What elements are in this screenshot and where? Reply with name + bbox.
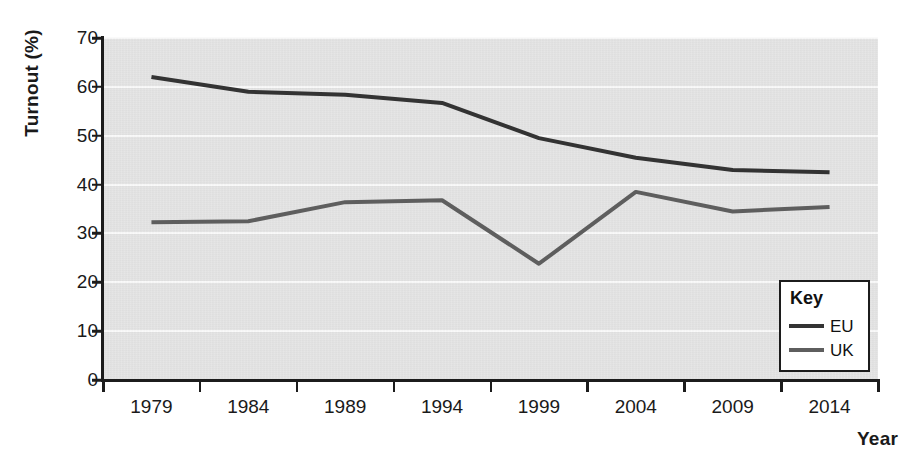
y-tick-mark bbox=[92, 232, 103, 235]
x-tick-mark bbox=[780, 379, 783, 392]
turnout-line-chart: Turnout (%) Year 010203040506070 Key EU … bbox=[0, 0, 912, 467]
y-tick-label: 10 bbox=[42, 320, 98, 342]
plot-area bbox=[103, 38, 878, 380]
legend-entry-eu: EU bbox=[789, 316, 854, 336]
x-tick-mark bbox=[393, 379, 396, 392]
legend-title: Key bbox=[790, 288, 823, 309]
y-tick-mark bbox=[92, 86, 103, 89]
x-tick-mark bbox=[586, 379, 589, 392]
y-tick-label: 40 bbox=[42, 174, 98, 196]
x-tick-label: 2014 bbox=[808, 396, 850, 418]
x-tick-mark bbox=[490, 379, 493, 392]
x-tick-label: 1984 bbox=[227, 396, 269, 418]
y-tick-label: 20 bbox=[42, 271, 98, 293]
x-tick-mark bbox=[199, 379, 202, 392]
y-tick-mark bbox=[92, 183, 103, 186]
gridline bbox=[103, 232, 878, 234]
gridline bbox=[103, 86, 878, 88]
x-tick-label: 2004 bbox=[615, 396, 657, 418]
y-tick-mark bbox=[92, 37, 103, 40]
x-tick-mark bbox=[102, 379, 105, 392]
legend-entry-uk: UK bbox=[789, 340, 854, 360]
gridline bbox=[103, 135, 878, 137]
y-tick-label: 50 bbox=[42, 125, 98, 147]
x-tick-label: 1999 bbox=[518, 396, 560, 418]
x-tick-mark bbox=[296, 379, 299, 392]
legend-key-box: Key EU UK bbox=[779, 280, 870, 372]
legend-label-uk: UK bbox=[830, 342, 854, 359]
x-tick-label: 2009 bbox=[712, 396, 754, 418]
y-tick-mark bbox=[92, 134, 103, 137]
legend-label-eu: EU bbox=[830, 318, 854, 335]
x-tick-label: 1994 bbox=[421, 396, 463, 418]
legend-swatch-uk bbox=[789, 348, 824, 352]
gridline bbox=[103, 281, 878, 283]
y-tick-mark bbox=[92, 281, 103, 284]
y-axis-tick-labels: 010203040506070 bbox=[36, 0, 98, 467]
legend-swatch-eu bbox=[789, 324, 824, 328]
gridline bbox=[103, 330, 878, 332]
x-tick-mark bbox=[877, 379, 880, 392]
x-tick-label: 1989 bbox=[324, 396, 366, 418]
x-axis-label: Year bbox=[857, 428, 898, 450]
y-tick-label: 60 bbox=[42, 76, 98, 98]
x-tick-mark bbox=[683, 379, 686, 392]
y-tick-mark bbox=[92, 330, 103, 333]
gridline bbox=[103, 37, 878, 39]
y-tick-label: 30 bbox=[42, 222, 98, 244]
y-tick-label: 70 bbox=[42, 27, 98, 49]
gridline bbox=[103, 184, 878, 186]
x-tick-label: 1979 bbox=[130, 396, 172, 418]
y-tick-label: 0 bbox=[42, 369, 98, 391]
